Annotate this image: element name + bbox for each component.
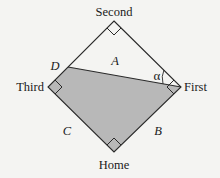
diagram-canvas: Second First Home Third D A B C α (0, 0, 220, 178)
baseball-diamond-diagram: Second First Home Third D A B C α (0, 0, 220, 178)
shaded-region (48, 67, 181, 152)
label-first-base: First (184, 80, 207, 94)
label-third-base: Third (16, 80, 45, 94)
label-point-d: D (49, 59, 59, 73)
label-home-plate: Home (99, 158, 130, 172)
label-side-c: C (63, 124, 72, 138)
label-second-base: Second (96, 5, 134, 19)
label-angle-alpha: α (154, 68, 161, 83)
angle-alpha-arc (162, 70, 164, 84)
label-region-a: A (110, 54, 119, 68)
right-angle-mark-second (107, 28, 121, 35)
label-side-b: B (154, 124, 162, 138)
